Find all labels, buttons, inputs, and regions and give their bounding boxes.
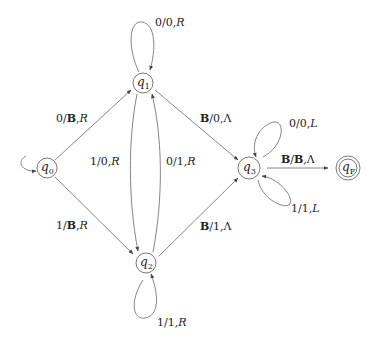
label-q0-q2: 1/B,R — [56, 219, 88, 232]
label-q3-loop-bottom: 1/1,L — [291, 202, 320, 215]
label-q2-loop: 1/1,R — [157, 316, 187, 329]
edge-q0-q2 — [55, 177, 133, 254]
edge-q0-q1 — [55, 90, 131, 160]
label-q1-loop: 0/0,R — [155, 16, 185, 29]
label-q3-qF: B/B,Λ — [281, 153, 316, 166]
state-qF-accepting: qF — [336, 156, 360, 180]
state-q1: q1 — [133, 73, 153, 93]
edge-q1-q3 — [155, 90, 238, 160]
label-q0-q1: 0/B,R — [56, 112, 88, 125]
edge-q2-loop — [134, 274, 156, 318]
edge-q2-q1 — [152, 94, 160, 252]
state-q0: q0 — [37, 158, 57, 178]
label-q1-q3: B/0,Λ — [200, 112, 233, 125]
label-q2-q3: B/1,Λ — [200, 220, 233, 233]
state-q3: q3 — [238, 157, 260, 179]
edge-q1-loop — [131, 22, 154, 72]
state-q2: q2 — [136, 253, 156, 273]
edge-q2-q3 — [159, 178, 238, 256]
start-arrow — [21, 156, 36, 171]
label-q1-q2: 1/0,R — [90, 155, 120, 168]
edge-q3-loop-bottom — [258, 176, 291, 206]
label-q3-loop-top: 0/0,L — [289, 117, 318, 130]
edge-q3-loop-top — [254, 122, 281, 157]
state-diagram: q0 q1 q2 q3 qF 0/0,R 0/B,R 1/0,R 0/1,R 1… — [0, 0, 377, 344]
label-q2-q1: 0/1,R — [166, 155, 196, 168]
edge-q1-q2 — [130, 94, 138, 251]
